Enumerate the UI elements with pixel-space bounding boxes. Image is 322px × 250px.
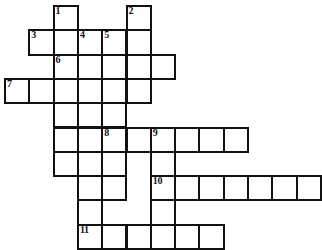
crossword-cell[interactable] — [53, 78, 79, 104]
cell-number-4: 4 — [80, 30, 85, 40]
crossword-cell[interactable]: 8 — [101, 127, 127, 153]
crossword-cell[interactable] — [101, 151, 127, 177]
cell-number-10: 10 — [153, 176, 162, 186]
cell-number-8: 8 — [104, 128, 109, 138]
cell-number-7: 7 — [7, 79, 12, 89]
crossword-cell[interactable] — [101, 224, 127, 250]
crossword-cell[interactable] — [53, 151, 79, 177]
crossword-cell[interactable]: 11 — [77, 224, 103, 250]
crossword-cell[interactable] — [28, 78, 54, 104]
cell-number-2: 2 — [129, 6, 134, 16]
crossword-cell[interactable] — [223, 127, 249, 153]
crossword-cell[interactable] — [150, 199, 176, 225]
crossword-cell[interactable] — [126, 78, 152, 104]
crossword-cell[interactable] — [77, 102, 103, 128]
crossword-cell[interactable] — [247, 175, 273, 201]
crossword-cell[interactable] — [126, 54, 152, 80]
crossword-cell[interactable]: 3 — [28, 29, 54, 55]
crossword-cell[interactable] — [174, 127, 200, 153]
crossword-cell[interactable] — [126, 29, 152, 55]
crossword-cell[interactable]: 2 — [126, 5, 152, 31]
crossword-cell[interactable] — [150, 224, 176, 250]
cell-number-5: 5 — [104, 30, 109, 40]
crossword-cell[interactable] — [198, 224, 224, 250]
crossword-cell[interactable] — [223, 175, 249, 201]
crossword-cell[interactable]: 10 — [150, 175, 176, 201]
crossword-cell[interactable]: 1 — [53, 5, 79, 31]
cell-number-9: 9 — [153, 128, 158, 138]
cell-number-1: 1 — [56, 6, 61, 16]
crossword-cell[interactable] — [126, 127, 152, 153]
cell-number-11: 11 — [80, 225, 89, 235]
crossword-cell[interactable]: 4 — [77, 29, 103, 55]
crossword-cell[interactable] — [296, 175, 322, 201]
crossword-cell[interactable] — [101, 175, 127, 201]
crossword-cell[interactable] — [77, 199, 103, 225]
crossword-cell[interactable] — [77, 151, 103, 177]
crossword-cell[interactable] — [53, 102, 79, 128]
crossword-cell[interactable] — [150, 54, 176, 80]
crossword-cell[interactable]: 6 — [53, 54, 79, 80]
crossword-cell[interactable] — [174, 175, 200, 201]
crossword-cell[interactable]: 9 — [150, 127, 176, 153]
crossword-cell[interactable]: 7 — [4, 78, 30, 104]
crossword-cell[interactable] — [101, 54, 127, 80]
crossword-cell[interactable] — [53, 29, 79, 55]
crossword-cell[interactable] — [174, 224, 200, 250]
crossword-cell[interactable] — [77, 175, 103, 201]
crossword-cell[interactable] — [271, 175, 297, 201]
cell-number-6: 6 — [56, 55, 61, 65]
cell-number-3: 3 — [31, 30, 36, 40]
crossword-cell[interactable] — [198, 127, 224, 153]
crossword-cell[interactable] — [53, 127, 79, 153]
crossword-cell[interactable]: 5 — [101, 29, 127, 55]
crossword-cell[interactable] — [77, 54, 103, 80]
crossword-cell[interactable] — [101, 102, 127, 128]
crossword-cell[interactable] — [77, 78, 103, 104]
crossword-cell[interactable] — [126, 224, 152, 250]
crossword-cell[interactable] — [198, 175, 224, 201]
crossword-cell[interactable] — [101, 78, 127, 104]
crossword-cell[interactable] — [77, 127, 103, 153]
crossword-cell[interactable] — [150, 151, 176, 177]
